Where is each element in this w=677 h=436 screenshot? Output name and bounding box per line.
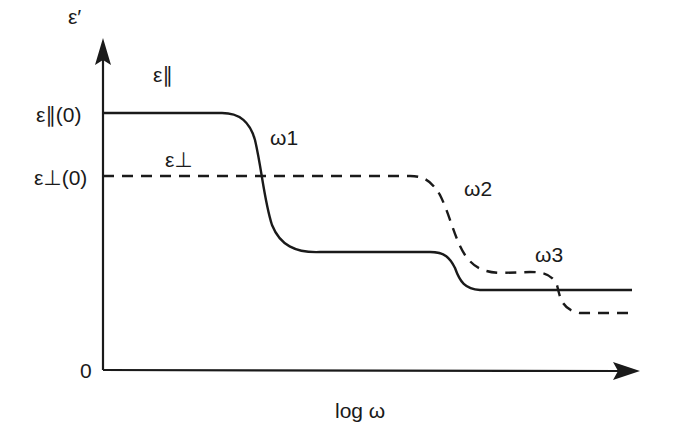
curve-label-eps-perp: ε⊥ bbox=[165, 148, 193, 171]
annotation-omega1: ω1 bbox=[270, 126, 298, 149]
curve-label-eps-par: ε∥ bbox=[153, 63, 173, 87]
y-tick-zero: 0 bbox=[80, 359, 92, 382]
y-tick-eps-par-static: ε∥(0) bbox=[36, 103, 82, 127]
annotation-omega3: ω3 bbox=[535, 243, 563, 266]
annotation-omega2: ω2 bbox=[464, 177, 492, 200]
x-axis-title: log ω bbox=[335, 399, 385, 422]
y-tick-eps-perp-static: ε⊥(0) bbox=[34, 166, 87, 189]
dielectric-dispersion-chart: ε′ log ω 0 ε∥(0) ε⊥(0) ε∥ ε⊥ ω1 ω2 ω3 bbox=[0, 0, 677, 436]
y-axis-title: ε′ bbox=[68, 5, 81, 28]
x-axis bbox=[103, 370, 620, 371]
